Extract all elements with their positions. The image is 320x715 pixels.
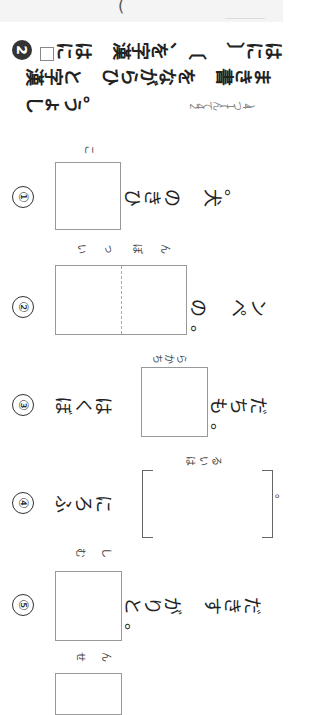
question-number-2: ②: [12, 296, 34, 318]
furigana-1: こ: [82, 145, 98, 160]
previous-page-strip: (: [0, 0, 283, 22]
kanji-answer-box-1[interactable]: [55, 162, 121, 230]
question-text-5: とりが すきだ。: [124, 594, 283, 646]
question-text-2: の ペン。: [190, 296, 283, 348]
question-text-4: 。: [274, 492, 288, 509]
bracket-answer-area-4[interactable]: [152, 470, 262, 536]
question-prefix-4: ふろに: [55, 492, 115, 518]
instruction-line-1: には 漢字を、〔 〕には: [38, 38, 320, 64]
divider: [225, 18, 265, 19]
question-number-4: ④: [12, 492, 34, 514]
instruction-line-3: しょう。: [26, 92, 309, 118]
question-number-3: ③: [12, 394, 34, 416]
question-number-5: ⑤: [12, 594, 34, 616]
kanji-answer-box-2[interactable]: [55, 265, 187, 335]
instruction-text-1: には 漢字を、〔 〕には: [56, 42, 284, 63]
question-prefix-3: ぼくは: [55, 394, 115, 420]
stray-paren: (: [118, 0, 124, 15]
score-label: 24てん(1つ4): [190, 98, 253, 113]
box-divider: [121, 266, 122, 334]
question-text-3: もちだ。: [210, 394, 283, 446]
furigana-5: むし: [68, 553, 120, 568]
question-text-1: ひきの 犬。: [124, 186, 244, 212]
bracket-right: [262, 470, 273, 538]
instruction-line-2: 漢字と ひらがなを 書きま: [26, 64, 309, 90]
kanji-answer-box-6[interactable]: [55, 673, 122, 715]
furigana-3: ちから: [152, 352, 188, 367]
kanji-answer-box-3[interactable]: [141, 367, 208, 437]
furigana-6: せん: [68, 657, 120, 672]
furigana-4: はいる: [185, 455, 224, 470]
furigana-2: いっぽん: [68, 250, 180, 265]
kanji-answer-box-5[interactable]: [55, 571, 122, 641]
question-number-1: ①: [12, 186, 34, 208]
section-number-badge: 2: [12, 40, 32, 60]
